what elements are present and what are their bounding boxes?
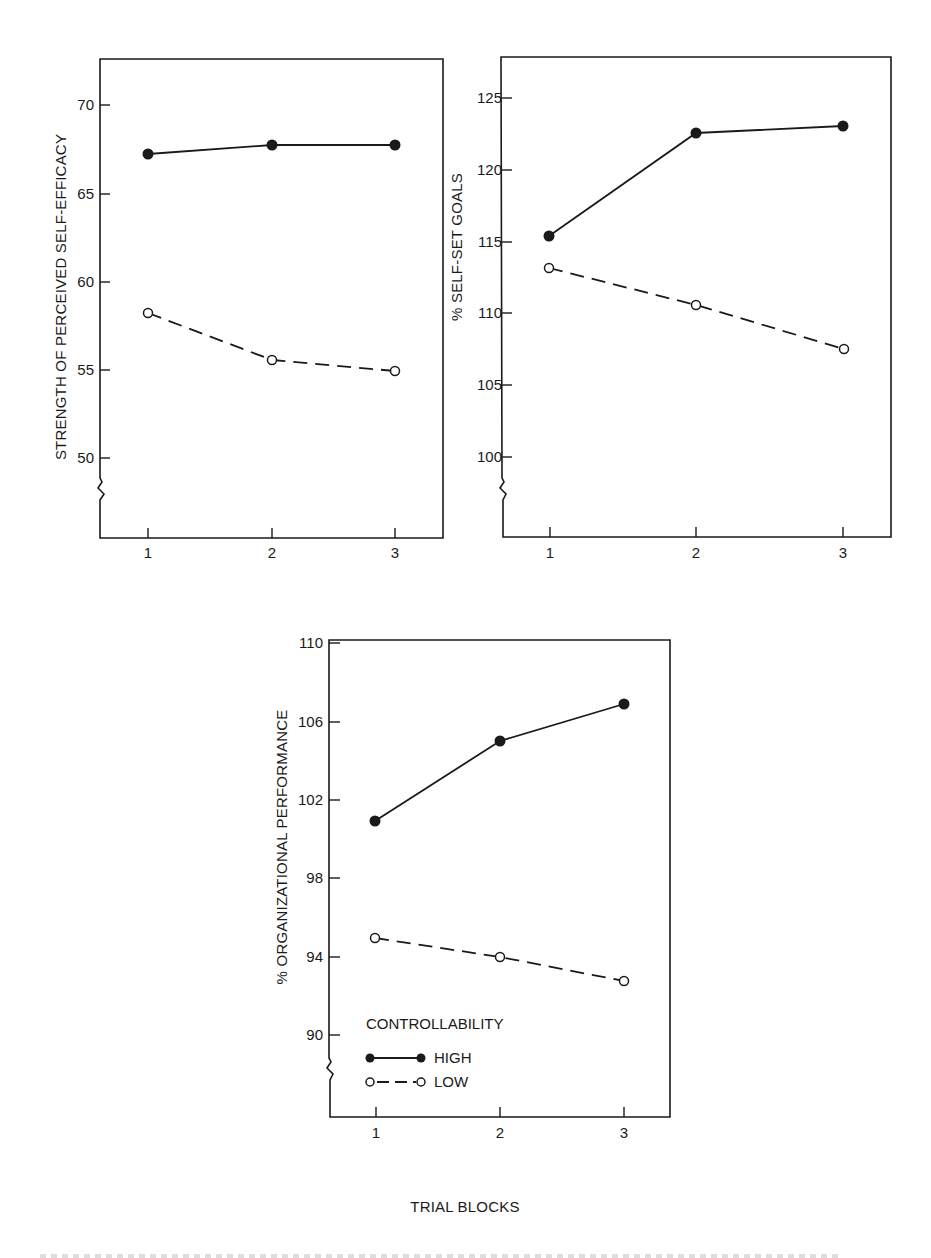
x-tick-label: 1	[144, 544, 152, 561]
high-data-point	[143, 149, 154, 160]
chart-organizational-performance: 110 106 102 98 94 90 % ORGANIZATIONAL PE…	[273, 634, 670, 1141]
low-data-point	[371, 934, 380, 943]
cropped-caption-line	[40, 1254, 840, 1258]
x-axis: 1 2 3	[546, 527, 847, 561]
y-tick-label: 70	[77, 96, 94, 113]
y-tick-label: 65	[77, 185, 94, 202]
y-axis-title: % ORGANIZATIONAL PERFORMANCE	[273, 710, 290, 985]
low-data-point	[144, 309, 153, 318]
y-axis-title: % SELF-SET GOALS	[448, 173, 465, 321]
high-data-point	[838, 121, 849, 132]
low-data-point	[496, 953, 505, 962]
low-data-point	[268, 356, 277, 365]
y-tick-label: 102	[298, 791, 323, 808]
high-data-point	[544, 231, 555, 242]
y-tick-label: 98	[306, 869, 323, 886]
legend-title: CONTROLLABILITY	[366, 1015, 504, 1032]
shared-x-axis-title: TRIAL BLOCKS	[410, 1198, 519, 1215]
legend-low-marker-icon	[417, 1078, 425, 1086]
x-tick-label: 2	[496, 1124, 504, 1141]
y-tick-label: 55	[77, 361, 94, 378]
y-tick-label: 115	[478, 233, 502, 250]
y-axis: 70 65 60 55 50	[77, 96, 110, 466]
y-tick-label: 60	[77, 273, 94, 290]
y-tick-label: 50	[77, 449, 94, 466]
chart-self-set-goals: 125 120 115 110 105 100 % SELF-SET GOALS…	[448, 57, 891, 561]
y-tick-label: 120	[477, 161, 502, 178]
y-tick-label: 94	[306, 948, 323, 965]
high-data-point	[495, 736, 506, 747]
y-tick-label: 125	[477, 89, 502, 106]
x-tick-label: 3	[391, 544, 399, 561]
high-data-point	[691, 128, 702, 139]
low-data-point	[391, 367, 400, 376]
x-tick-label: 1	[546, 544, 554, 561]
series-high-line	[549, 126, 843, 236]
legend: CONTROLLABILITY HIGH LOW	[366, 1015, 504, 1090]
x-tick-label: 2	[692, 544, 700, 561]
low-data-point	[840, 345, 849, 354]
legend-label-high: HIGH	[434, 1049, 472, 1066]
plot-frame	[98, 59, 443, 538]
y-tick-label: 105	[477, 376, 502, 393]
x-axis: 1 2 3	[144, 528, 399, 561]
y-tick-label: 110	[478, 304, 502, 321]
y-axis: 110 106 102 98 94 90	[298, 634, 340, 1043]
y-tick-label: 90	[306, 1026, 323, 1043]
chart-self-efficacy: 70 65 60 55 50 STRENGTH OF PERCEIVED SEL…	[52, 59, 443, 561]
figure-canvas: 70 65 60 55 50 STRENGTH OF PERCEIVED SEL…	[0, 0, 931, 1258]
y-tick-label: 110	[299, 634, 323, 651]
x-tick-label: 1	[372, 1124, 380, 1141]
series-high-line	[375, 704, 624, 821]
x-tick-label: 3	[839, 544, 847, 561]
legend-high-marker-icon	[366, 1054, 375, 1063]
plot-frame	[327, 640, 670, 1117]
legend-high-marker-icon	[417, 1054, 426, 1063]
low-data-point	[620, 977, 629, 986]
high-data-point	[370, 816, 381, 827]
x-axis: 1 2 3	[372, 1107, 628, 1141]
high-data-point	[390, 140, 401, 151]
y-axis: 125 120 115 110 105 100	[477, 89, 512, 465]
legend-label-low: LOW	[434, 1073, 469, 1090]
y-tick-label: 106	[298, 713, 323, 730]
y-axis-title: STRENGTH OF PERCEIVED SELF-EFFICACY	[52, 134, 69, 460]
legend-low-marker-icon	[366, 1078, 374, 1086]
low-data-point	[545, 264, 554, 273]
x-tick-label: 3	[620, 1124, 628, 1141]
x-tick-label: 2	[268, 544, 276, 561]
high-data-point	[267, 140, 278, 151]
high-data-point	[619, 699, 630, 710]
low-data-point	[692, 301, 701, 310]
y-tick-label: 100	[477, 448, 502, 465]
